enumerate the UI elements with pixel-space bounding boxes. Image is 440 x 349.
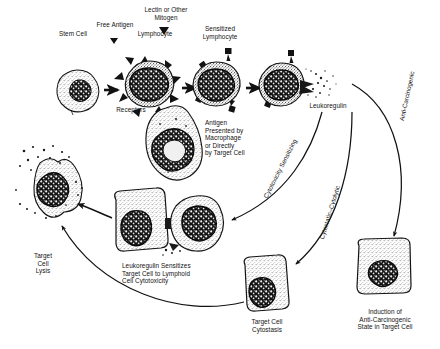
cell-sensitized-lymphocyte xyxy=(193,48,240,113)
label-anti-carcinogenic-state: Induction of Anti-Carcinogenic State in … xyxy=(340,308,430,331)
diagram-canvas: Stem Cell Free Antigen Lymphocyte Lectin… xyxy=(0,0,440,349)
arrow-conjugate-to-lysis xyxy=(78,204,112,218)
cell-macrophage xyxy=(146,106,202,180)
cell-target-cytostasis xyxy=(244,255,289,311)
free-antigen-arrow xyxy=(110,38,118,44)
cell-target-lysis xyxy=(15,145,83,219)
label-free-antigen: Free Antigen xyxy=(82,21,148,29)
label-antigen-presented: Antigen Presented by Macrophage or Direc… xyxy=(205,119,283,157)
label-leukoregulin: Leukoregulin xyxy=(297,102,359,110)
arrow-anti-carcinogenic xyxy=(352,84,401,236)
label-stem-cell: Stem Cell xyxy=(38,30,108,38)
cell-anti-carcinogenic-state xyxy=(357,238,411,294)
label-lymphocyte: Lymphocyte xyxy=(120,30,190,38)
diagram-artwork xyxy=(0,0,440,349)
label-leukoregulin-sensitizes: Leukoregulin Sensitizes Target Cell to L… xyxy=(122,262,232,285)
leukoregulin-secretion xyxy=(299,68,337,97)
cell-stem xyxy=(57,70,99,115)
label-receptors: Receptors xyxy=(103,106,159,114)
label-target-cell-cytostasis: Target Cell Cytostasis xyxy=(232,318,302,333)
label-sensitized-lymphocyte: Sensitized Lymphocyte xyxy=(185,25,255,40)
label-target-cell-lysis: Target Cell Lysis xyxy=(22,252,64,275)
cell-conjugate-target-and-lymphoid xyxy=(115,188,224,256)
label-lectin-or-other-mitogen: Lectin or Other Mitogen xyxy=(131,6,201,21)
cell-leukoregulin-secreting xyxy=(259,50,337,108)
arrow-cytostatic-cytolytic xyxy=(296,112,352,264)
